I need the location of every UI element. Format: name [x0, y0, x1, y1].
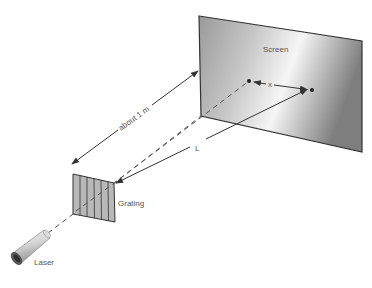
about-1m-label: about 1 m — [117, 104, 151, 132]
diffraction-grating-diagram: x about 1 m L Grating Laser Screen — [0, 0, 372, 288]
laser-label: Laser — [34, 258, 54, 267]
L-label: L — [195, 144, 200, 153]
screen-label: Screen — [263, 45, 288, 54]
x-label: x — [268, 80, 272, 89]
distance-arrow — [72, 130, 118, 164]
screen — [199, 16, 362, 152]
distance-arrow — [152, 71, 198, 105]
first-order-spot — [310, 88, 314, 92]
central-spot — [247, 79, 251, 83]
grating-label: Grating — [118, 199, 144, 208]
L-arrow — [116, 147, 190, 183]
